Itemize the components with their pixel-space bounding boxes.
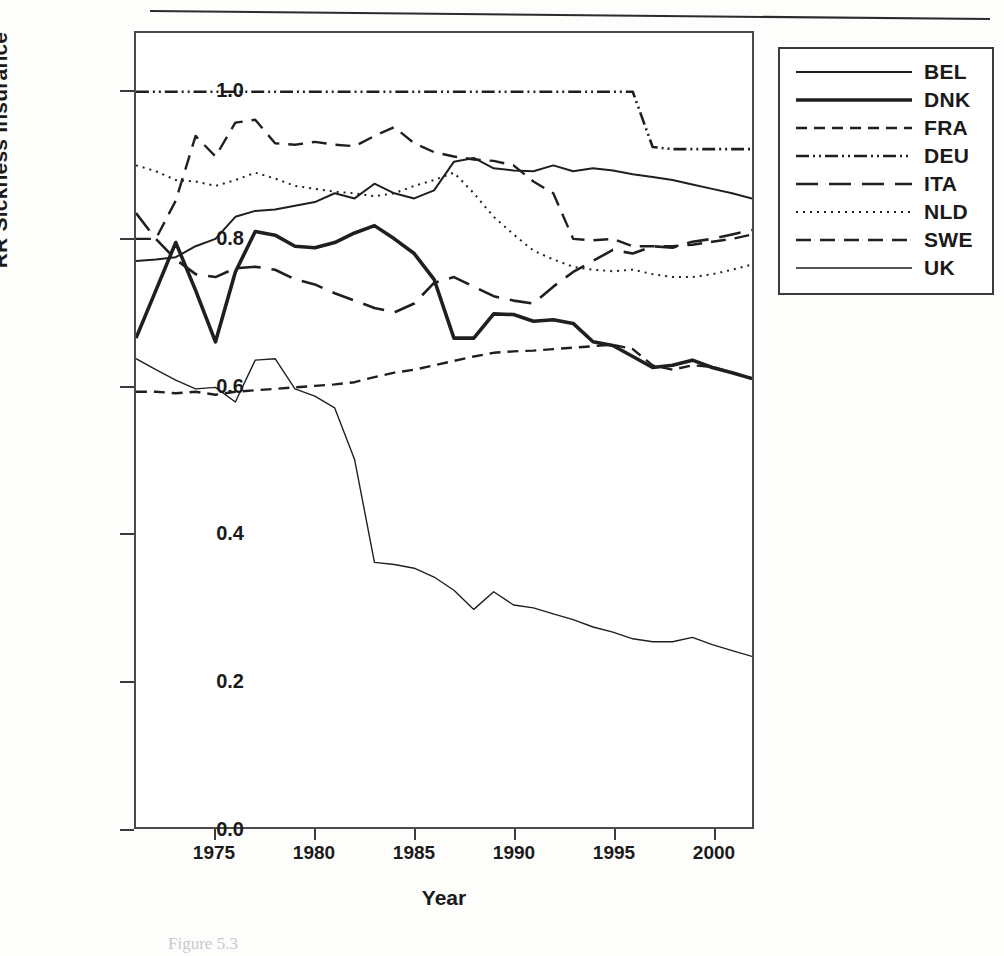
legend-item-bel: BEL <box>780 58 992 86</box>
legend-swatch-dnk-icon <box>794 92 914 108</box>
legend-swatch-swe-icon <box>794 232 914 248</box>
legend-item-uk: UK <box>780 254 992 282</box>
y-tick-mark <box>120 681 134 683</box>
legend-label: DEU <box>924 144 969 168</box>
legend-label: DNK <box>924 88 970 112</box>
legend-item-nld: NLD <box>780 198 992 226</box>
plot-area <box>134 31 754 829</box>
y-tick-label: 0.6 <box>174 375 244 398</box>
y-tick-mark <box>120 90 134 92</box>
legend-swatch-nld-icon <box>794 204 914 220</box>
chart-legend: BELDNKFRADEUITANLDSWEUK <box>778 47 994 295</box>
y-tick-label: 0.0 <box>174 818 244 841</box>
legend-item-deu: DEU <box>780 142 992 170</box>
legend-label: FRA <box>924 116 968 140</box>
y-tick-mark <box>120 829 134 831</box>
legend-swatch-deu-icon <box>794 148 914 164</box>
legend-swatch-ita-icon <box>794 176 914 192</box>
figure-caption: Figure 5.3 <box>168 934 238 954</box>
x-tick-mark <box>414 829 416 840</box>
y-axis-label: RR Sickness Insurance <box>0 0 12 300</box>
legend-item-ita: ITA <box>780 170 992 198</box>
x-tick-mark <box>614 829 616 840</box>
y-tick-label: 0.8 <box>174 227 244 250</box>
x-tick-label: 1990 <box>474 842 554 864</box>
x-tick-mark <box>314 829 316 840</box>
x-tick-mark <box>514 829 516 840</box>
legend-item-dnk: DNK <box>780 86 992 114</box>
y-tick-mark <box>120 238 134 240</box>
legend-swatch-fra-icon <box>794 120 914 136</box>
y-tick-label: 0.2 <box>174 670 244 693</box>
legend-label: BEL <box>924 60 967 84</box>
y-tick-label: 0.4 <box>174 522 244 545</box>
legend-swatch-uk-icon <box>794 260 914 276</box>
y-tick-label: 1.0 <box>174 79 244 102</box>
legend-swatch-bel-icon <box>794 64 914 80</box>
x-tick-mark <box>214 829 216 840</box>
series-line-uk <box>136 359 752 657</box>
legend-label: NLD <box>924 200 968 224</box>
x-axis-label: Year <box>134 886 754 910</box>
x-tick-label: 1980 <box>274 842 354 864</box>
chart-lines-svg <box>136 33 752 827</box>
legend-label: UK <box>924 256 955 280</box>
x-tick-mark <box>714 829 716 840</box>
x-tick-label: 1975 <box>174 842 254 864</box>
series-line-nld <box>136 165 752 277</box>
x-tick-label: 2000 <box>674 842 754 864</box>
legend-label: SWE <box>924 228 973 252</box>
x-tick-label: 1985 <box>374 842 454 864</box>
y-tick-mark <box>120 533 134 535</box>
y-tick-mark <box>120 386 134 388</box>
legend-item-swe: SWE <box>780 226 992 254</box>
legend-item-fra: FRA <box>780 114 992 142</box>
x-tick-label: 1995 <box>574 842 654 864</box>
legend-label: ITA <box>924 172 957 196</box>
page-rule <box>150 10 990 20</box>
